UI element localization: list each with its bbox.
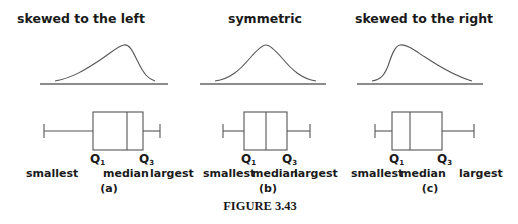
sublabel-a: (a) <box>100 182 117 195</box>
median-label-c: median <box>400 167 446 180</box>
panel-a-title: skewed to the left <box>17 11 145 26</box>
largest-label-c: largest <box>459 167 503 180</box>
q1-label-c: Q1 <box>389 152 404 167</box>
right-skewed-curve <box>372 45 472 81</box>
smallest-label-c: smallest <box>351 167 403 180</box>
iqr-box-a <box>93 112 143 150</box>
panel-b-title: symmetric <box>228 11 302 26</box>
panel-c-title: skewed to the right <box>355 11 493 26</box>
largest-label-b: largest <box>294 167 338 180</box>
symmetric-curve <box>215 45 316 81</box>
q3-label-c: Q3 <box>437 152 452 167</box>
largest-label-a: largest <box>150 167 194 180</box>
sublabel-b: (b) <box>259 182 277 195</box>
q1-label-b: Q1 <box>241 152 256 167</box>
q3-label-a: Q3 <box>139 152 154 167</box>
median-label-b: median <box>252 167 298 180</box>
figure-3-43: skewed to the left Q1 Q3 smallest median… <box>0 0 518 224</box>
figure-canvas: skewed to the left Q1 Q3 smallest median… <box>0 0 518 224</box>
q3-label-b: Q3 <box>282 152 297 167</box>
smallest-label-a: smallest <box>26 167 78 180</box>
median-label-a: median <box>103 167 149 180</box>
figure-caption: FIGURE 3.43 <box>223 199 297 213</box>
panel-b: symmetric Q1 Q3 smallest median largest … <box>200 11 338 195</box>
smallest-label-b: smallest <box>203 167 255 180</box>
left-skewed-curve <box>55 45 155 81</box>
panel-c: skewed to the right Q1 Q3 smallest media… <box>351 11 503 195</box>
iqr-box-c <box>392 112 442 150</box>
panel-a: skewed to the left Q1 Q3 smallest median… <box>17 11 194 195</box>
q1-label-a: Q1 <box>90 152 105 167</box>
sublabel-c: (c) <box>422 182 439 195</box>
